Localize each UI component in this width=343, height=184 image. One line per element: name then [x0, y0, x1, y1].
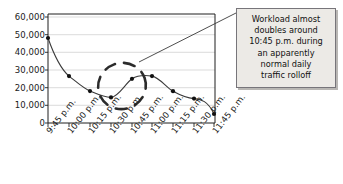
callout-line-6: traffic rolloff [241, 70, 331, 81]
callout-line-3: 10:45 p.m. during [241, 36, 331, 47]
callout-line-2: doubles around [241, 25, 331, 36]
callout-line-1: Workload almost [241, 14, 331, 25]
line-chart: 60,000 50,000 40,000 30,000 20,000 10,00… [0, 0, 343, 184]
chart-screenshot: 60,000 50,000 40,000 30,000 20,000 10,00… [0, 0, 343, 184]
callout-line-4: an apparently [241, 48, 331, 59]
callout-line-5: normal daily [241, 59, 331, 70]
callout-box: Workload almost doubles around 10:45 p.m… [236, 8, 336, 88]
